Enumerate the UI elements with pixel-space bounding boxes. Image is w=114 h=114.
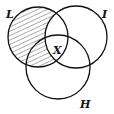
label-i: I <box>102 9 107 20</box>
label-l: L <box>6 9 14 20</box>
venn-diagram: L I H X <box>0 0 114 114</box>
shaded-region <box>0 0 114 114</box>
label-h: H <box>80 99 90 110</box>
label-x: X <box>53 45 62 56</box>
venn-svg <box>0 0 114 114</box>
